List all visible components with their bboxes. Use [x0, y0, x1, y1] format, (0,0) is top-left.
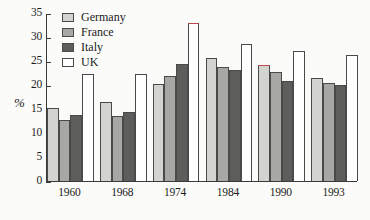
bar-italy-1993 — [335, 85, 347, 181]
x-tick-label-1974: 1974 — [152, 186, 199, 198]
legend-swatch-icon-france — [62, 28, 74, 37]
y-tick-label: 25 — [14, 54, 42, 66]
bar-uk-1968 — [135, 74, 147, 181]
legend: GermanyFranceItalyUK — [62, 10, 126, 70]
bar-france-1960 — [59, 120, 71, 181]
bar-italy-1990 — [282, 81, 294, 181]
y-tick-label: 0 — [14, 174, 42, 186]
legend-item-uk[interactable]: UK — [62, 55, 126, 69]
legend-item-italy[interactable]: Italy — [62, 40, 126, 54]
bar-germany-1990 — [258, 65, 270, 181]
bar-germany-1984 — [206, 58, 218, 181]
legend-swatch-icon-uk — [62, 58, 74, 67]
legend-label: Germany — [81, 11, 126, 23]
bar-france-1990 — [270, 72, 282, 181]
y-tick-mark — [46, 182, 51, 183]
bar-france-1984 — [217, 67, 229, 181]
bar-germany-1960 — [47, 108, 59, 181]
bar-uk-1974 — [188, 23, 200, 181]
bar-germany-1993 — [311, 78, 323, 181]
bar-uk-1990 — [293, 51, 305, 181]
legend-swatch-icon-italy — [62, 43, 74, 52]
bar-france-1968 — [112, 116, 124, 181]
y-tick-label: 20 — [14, 78, 42, 90]
y-tick-label: 10 — [14, 126, 42, 138]
y-tick-label: 5 — [14, 150, 42, 162]
bar-france-1974 — [164, 76, 176, 181]
bar-uk-1984 — [241, 44, 253, 181]
x-tick-label-1960: 1960 — [46, 186, 93, 198]
y-tick-label: 35 — [14, 6, 42, 18]
bar-uk-1960 — [82, 74, 94, 181]
bar-uk-1993 — [346, 55, 358, 181]
bar-italy-1974 — [176, 64, 188, 181]
x-tick-label-1984: 1984 — [205, 186, 252, 198]
legend-label: UK — [81, 56, 98, 68]
legend-label: France — [81, 26, 114, 38]
bar-germany-1974 — [153, 84, 165, 181]
bar-germany-1968 — [100, 102, 112, 181]
bar-italy-1984 — [229, 70, 241, 181]
y-tick-label: 15 — [14, 102, 42, 114]
bar-italy-1968 — [123, 112, 135, 181]
x-tick-label-1990: 1990 — [257, 186, 304, 198]
legend-label: Italy — [81, 41, 103, 53]
legend-swatch-icon-germany — [62, 13, 74, 22]
bar-italy-1960 — [70, 115, 82, 181]
x-tick-label-1993: 1993 — [310, 186, 357, 198]
y-tick-label: 30 — [14, 30, 42, 42]
chart-page: % 05101520253035 19601968197419841990199… — [0, 0, 370, 220]
legend-item-germany[interactable]: Germany — [62, 10, 126, 24]
x-tick-label-1968: 1968 — [99, 186, 146, 198]
bar-france-1993 — [323, 83, 335, 181]
legend-item-france[interactable]: France — [62, 25, 126, 39]
